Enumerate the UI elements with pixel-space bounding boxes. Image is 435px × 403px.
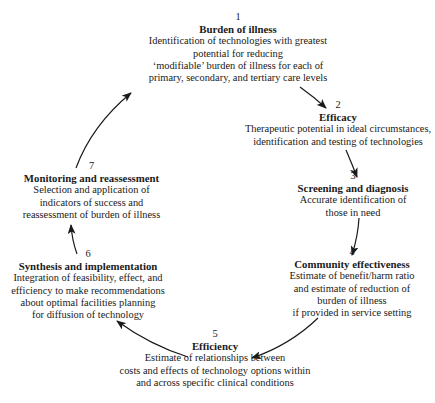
node-burden-of-illness: 1 Burden of illness Identification of te… bbox=[108, 11, 368, 84]
node-text-line: Selection and application of bbox=[14, 184, 169, 196]
node-number: 7 bbox=[14, 160, 169, 172]
node-number: 5 bbox=[100, 328, 330, 340]
node-efficiency: 5 Efficiency Estimate of relationships b… bbox=[100, 328, 330, 389]
node-text-line: Therapeutic potential in ideal circumsta… bbox=[228, 123, 435, 135]
node-community-effectiveness: 4 Community effectiveness Estimate of be… bbox=[279, 246, 425, 319]
node-text-line: and estimate of reduction of bbox=[279, 283, 425, 295]
node-text-line: reassessment of burden of illness bbox=[14, 209, 169, 221]
node-title: Community effectiveness bbox=[279, 258, 425, 270]
node-synthesis-and-implementation: 6 Synthesis and implementation Integrati… bbox=[8, 248, 168, 321]
node-text-line: potential for reducing bbox=[108, 48, 368, 60]
node-text-line: costs and effects of technology options … bbox=[100, 365, 330, 377]
node-text-line: indicators of success and bbox=[14, 197, 169, 209]
node-text-line: if provided in service setting bbox=[279, 307, 425, 319]
node-text-line: efficiency to make recommendations bbox=[8, 285, 168, 297]
node-number: 2 bbox=[228, 99, 435, 111]
node-title: Efficacy bbox=[228, 111, 435, 123]
node-title: Burden of illness bbox=[108, 23, 368, 35]
node-text-line: and across specific clinical conditions bbox=[100, 377, 330, 389]
node-text-line: for diffusion of technology bbox=[8, 309, 168, 321]
node-number: 4 bbox=[279, 246, 425, 258]
node-text-line: Identification of technologies with grea… bbox=[108, 35, 368, 47]
node-text-line: Estimate of relationships between bbox=[100, 352, 330, 364]
node-title: Efficiency bbox=[100, 340, 330, 352]
node-number: 6 bbox=[8, 248, 168, 260]
node-text-line: burden of illness bbox=[279, 295, 425, 307]
node-text-line: identification and testing of technologi… bbox=[228, 136, 435, 148]
node-monitoring-and-reassessment: 7 Monitoring and reassessment Selection … bbox=[14, 160, 169, 221]
node-text-line: Accurate identification of bbox=[288, 194, 418, 206]
arrow-7-to-1 bbox=[76, 93, 131, 168]
node-text-line: Estimate of benefit/harm ratio bbox=[279, 270, 425, 282]
node-title: Screening and diagnosis bbox=[288, 182, 418, 194]
node-text-line: Integration of feasibility, effect, and bbox=[8, 272, 168, 284]
node-number: 3 bbox=[288, 170, 418, 182]
node-title: Monitoring and reassessment bbox=[14, 172, 169, 184]
node-text-line: about optimal facilities planning bbox=[8, 297, 168, 309]
node-title: Synthesis and implementation bbox=[8, 260, 168, 272]
node-efficacy: 2 Efficacy Therapeutic potential in idea… bbox=[228, 99, 435, 148]
node-text-line: ‘modifiable’ burden of illness for each … bbox=[108, 60, 368, 72]
node-text-line: primary, secondary, and tertiary care le… bbox=[108, 72, 368, 84]
node-text-line: those in need bbox=[288, 207, 418, 219]
node-screening-and-diagnosis: 3 Screening and diagnosis Accurate ident… bbox=[288, 170, 418, 219]
node-number: 1 bbox=[108, 11, 368, 23]
